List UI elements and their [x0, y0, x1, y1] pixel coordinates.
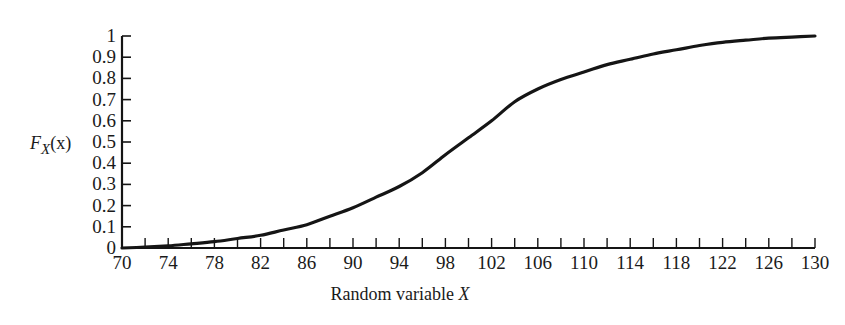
tick-labels: 00.10.20.30.40.50.60.70.80.9170747882869… — [92, 25, 829, 273]
y-tick-label: 0.9 — [92, 46, 116, 67]
y-tick-label: 0.8 — [92, 67, 116, 88]
x-tick-label: 122 — [708, 252, 737, 273]
x-tick-label: 70 — [113, 252, 132, 273]
axes — [122, 36, 815, 248]
ticks — [122, 36, 815, 248]
x-tick-label: 74 — [159, 252, 179, 273]
y-axis-title-arg: (x) — [50, 133, 71, 154]
x-tick-label: 90 — [344, 252, 363, 273]
y-tick-label: 0.4 — [92, 152, 116, 173]
cdf-curve — [122, 36, 815, 248]
x-axis-title-text: Random variable — [331, 284, 459, 304]
y-tick-label: 1 — [107, 25, 117, 46]
x-axis-title: Random variable X — [331, 284, 471, 304]
x-tick-label: 114 — [616, 252, 644, 273]
x-tick-label: 106 — [524, 252, 553, 273]
y-tick-label: 0.3 — [92, 173, 116, 194]
x-tick-label: 130 — [801, 252, 830, 273]
x-axis-title-var: X — [457, 284, 470, 304]
y-tick-label: 0.1 — [92, 216, 116, 237]
y-tick-label: 0.7 — [92, 89, 116, 110]
y-tick-label: 0.5 — [92, 131, 116, 152]
y-axis-title: FX(x) — [29, 133, 71, 157]
x-tick-label: 98 — [436, 252, 455, 273]
y-tick-label: 0.2 — [92, 195, 116, 216]
x-tick-label: 102 — [477, 252, 506, 273]
x-tick-label: 78 — [205, 252, 224, 273]
x-tick-label: 126 — [755, 252, 784, 273]
cdf-chart: 00.10.20.30.40.50.60.70.80.9170747882869… — [0, 0, 845, 325]
x-tick-label: 110 — [570, 252, 598, 273]
x-tick-label: 94 — [390, 252, 410, 273]
y-tick-label: 0.6 — [92, 110, 116, 131]
x-tick-label: 86 — [297, 252, 316, 273]
x-tick-label: 118 — [663, 252, 691, 273]
x-tick-label: 82 — [251, 252, 270, 273]
